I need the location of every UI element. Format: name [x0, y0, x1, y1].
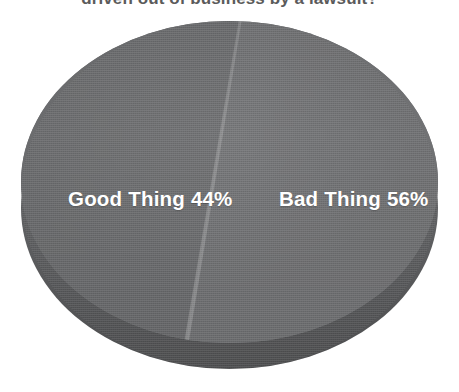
pie-chart-figure: driven out of business by a lawsuit? Goo… — [0, 0, 459, 392]
pie-top-face — [21, 21, 438, 343]
pie-label-good-thing: Good Thing 44% — [68, 187, 233, 211]
chart-title-clipped: driven out of business by a lawsuit? — [0, 0, 459, 11]
pie-label-bad-thing: Bad Thing 56% — [279, 187, 429, 211]
pie-chart: Good Thing 44% Bad Thing 56% — [21, 21, 438, 369]
pie-face-shading — [21, 21, 438, 343]
chart-title: driven out of business by a lawsuit? — [0, 0, 459, 9]
